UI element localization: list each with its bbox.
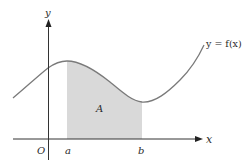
shaded-area-region — [67, 61, 142, 139]
b-label: b — [138, 145, 144, 156]
origin-label: O — [37, 145, 45, 156]
a-label: a — [65, 145, 71, 156]
x-axis-arrow-icon — [195, 136, 203, 142]
curve-equation-label: y = f(x) — [205, 38, 242, 49]
x-axis-label: x — [206, 133, 213, 146]
area-label: A — [95, 103, 103, 114]
area-under-curve-diagram: y x O a b A y = f(x) — [0, 0, 243, 162]
y-axis-arrow-icon — [46, 19, 52, 27]
y-axis-label: y — [44, 7, 51, 18]
